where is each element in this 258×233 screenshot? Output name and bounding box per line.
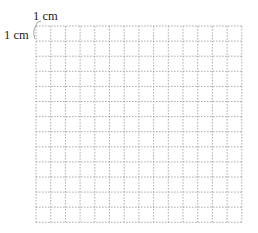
grid-lines: [36, 26, 242, 222]
square-grid: [0, 0, 258, 233]
top-measure-bracket: [36, 21, 41, 26]
